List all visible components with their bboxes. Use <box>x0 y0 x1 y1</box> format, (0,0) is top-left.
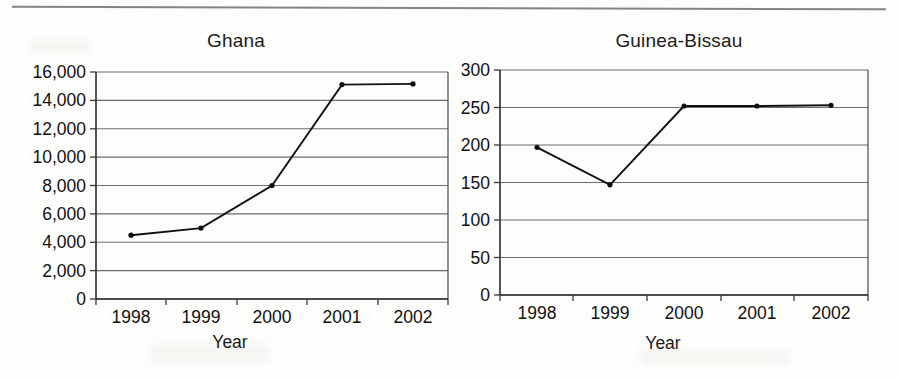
chart-ghana: Ghana <box>0 0 460 379</box>
xtick-label: 2002 <box>812 303 851 320</box>
xtick-labels-guinea-bissau: 1998 1999 2000 2001 2002 <box>518 303 851 320</box>
ytick-label: 200 <box>461 135 490 155</box>
ytick-label: 8,000 <box>42 176 86 196</box>
ytick-label: 10,000 <box>32 147 86 167</box>
data-point <box>198 226 203 231</box>
chart-title-ghana: Ghana <box>0 30 466 52</box>
data-point <box>410 81 415 86</box>
xaxis-title-guinea-bissau: Year <box>455 333 871 354</box>
ytick-label: 6,000 <box>42 204 86 224</box>
data-point <box>534 145 539 150</box>
plot-area-ghana: 16,000 14,000 12,000 10,000 8,000 6,000 … <box>0 55 460 325</box>
xtick-label: 1999 <box>591 303 630 320</box>
data-point <box>339 82 344 87</box>
xtick-label: 1999 <box>182 307 221 325</box>
ytick-label: 0 <box>480 285 490 305</box>
xtick-label: 2000 <box>665 303 704 320</box>
xtick-label: 1998 <box>518 303 557 320</box>
data-point <box>607 182 612 187</box>
data-point <box>269 183 274 188</box>
ytick-label: 12,000 <box>32 119 86 139</box>
plot-area-guinea-bissau: 300 250 200 150 100 50 0 <box>455 50 899 320</box>
data-point <box>681 103 686 108</box>
ytick-label: 100 <box>461 210 490 230</box>
ytick-label: 300 <box>461 60 490 80</box>
xtick-label: 2001 <box>738 303 777 320</box>
ytick-label: 16,000 <box>32 62 86 82</box>
ytick-labels-guinea-bissau: 300 250 200 150 100 50 0 <box>461 60 490 305</box>
plot-svg-guinea-bissau: 300 250 200 150 100 50 0 <box>455 50 899 320</box>
ytick-labels-ghana: 16,000 14,000 12,000 10,000 8,000 6,000 … <box>32 62 86 309</box>
ytick-label: 0 <box>76 289 86 309</box>
plot-svg-ghana: 16,000 14,000 12,000 10,000 8,000 6,000 … <box>0 55 460 325</box>
chart-title-guinea-bissau: Guinea-Bissau <box>455 30 899 52</box>
data-point <box>754 103 759 108</box>
xtick-labels-ghana: 1998 1999 2000 2001 2002 <box>112 307 433 325</box>
ytick-label: 2,000 <box>42 261 86 281</box>
xtick-label: 2000 <box>253 307 292 325</box>
xaxis-title-ghana: Year <box>0 332 460 353</box>
ytick-label: 14,000 <box>32 90 86 110</box>
data-point <box>828 103 833 108</box>
chart-guinea-bissau: Guinea-Bissau <box>455 0 899 379</box>
xtick-marks-ghana <box>96 299 448 305</box>
ytick-label: 4,000 <box>42 232 86 252</box>
charts-row: Ghana <box>0 0 899 379</box>
ytick-label: 50 <box>471 248 491 268</box>
ytick-label: 250 <box>461 98 490 118</box>
ytick-marks-guinea-bissau <box>494 70 500 295</box>
ytick-label: 150 <box>461 173 490 193</box>
ytick-marks-ghana <box>90 72 96 299</box>
xtick-label: 2002 <box>394 307 433 325</box>
xtick-label: 1998 <box>112 307 151 325</box>
xtick-label: 2001 <box>323 307 362 325</box>
data-point <box>128 233 133 238</box>
series-line-ghana <box>131 84 413 235</box>
xtick-marks-guinea-bissau <box>500 295 868 301</box>
